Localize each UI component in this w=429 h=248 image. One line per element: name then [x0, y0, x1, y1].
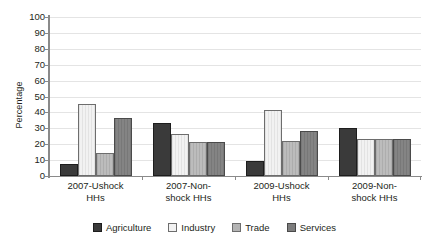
y-tick-label: 100: [21, 12, 45, 22]
x-tick-label-line: HHs: [49, 192, 142, 204]
x-tick-label: 2007-Non-shock HHs: [142, 180, 235, 203]
y-tick-label: 60: [21, 76, 45, 86]
bar-agriculture[interactable]: [60, 164, 78, 176]
x-tick-label-line: 2007-Ushock: [49, 180, 142, 192]
plot-area: [49, 17, 421, 176]
bar-agriculture[interactable]: [153, 123, 171, 176]
legend-item[interactable]: Industry: [168, 222, 215, 233]
y-tick-label: 90: [21, 28, 45, 38]
legend-item[interactable]: Agriculture: [93, 222, 151, 233]
legend-label: Services: [300, 222, 336, 233]
x-axis-tick-labels: 2007-UshockHHs2007-Non-shock HHs2009-Ush…: [49, 180, 421, 203]
legend-item[interactable]: Trade: [232, 222, 269, 233]
bar-chart: Percentage 1009080706050403020100 2007-U…: [0, 0, 429, 248]
x-tick-label-line: shock HHs: [142, 192, 235, 204]
bar-group: [49, 17, 142, 176]
bar-industry[interactable]: [264, 110, 282, 176]
bar-services[interactable]: [393, 139, 411, 176]
x-tick-label-line: HHs: [235, 192, 328, 204]
bar-industry[interactable]: [171, 134, 189, 176]
x-tick-label-line: 2009-Ushock: [235, 180, 328, 192]
legend-label: Trade: [245, 222, 269, 233]
bar-group: [235, 17, 328, 176]
legend-label: Industry: [181, 222, 215, 233]
y-tick-label: 10: [21, 155, 45, 165]
legend-swatch-icon: [93, 223, 102, 232]
legend-item[interactable]: Services: [287, 222, 336, 233]
y-axis-title: Percentage: [14, 60, 24, 150]
bar-trade[interactable]: [375, 139, 393, 176]
y-tick-label: 80: [21, 44, 45, 54]
x-tick-label-line: 2009-Non-: [328, 180, 421, 192]
y-tick-label: 20: [21, 139, 45, 149]
bar-services[interactable]: [207, 142, 225, 176]
bar-industry[interactable]: [357, 139, 375, 176]
legend-swatch-icon: [287, 223, 296, 232]
bar-agriculture[interactable]: [246, 161, 264, 176]
legend-swatch-icon: [232, 223, 241, 232]
bar-trade[interactable]: [282, 141, 300, 176]
y-tick-label: 0: [21, 171, 45, 181]
x-tick-label: 2007-UshockHHs: [49, 180, 142, 203]
x-tick-label-line: shock HHs: [328, 192, 421, 204]
legend-label: Agriculture: [106, 222, 151, 233]
y-tick-label: 40: [21, 107, 45, 117]
y-tick-label: 30: [21, 123, 45, 133]
bar-industry[interactable]: [78, 104, 96, 176]
bar-services[interactable]: [114, 118, 132, 176]
y-tick-label: 70: [21, 60, 45, 70]
bar-services[interactable]: [300, 131, 318, 176]
x-tick-label: 2009-Non-shock HHs: [328, 180, 421, 203]
chart-legend: AgricultureIndustryTradeServices: [0, 222, 429, 233]
bar-trade[interactable]: [189, 142, 207, 176]
x-tick-label-line: 2007-Non-: [142, 180, 235, 192]
bar-group: [328, 17, 421, 176]
bar-group: [142, 17, 235, 176]
x-tick-label: 2009-UshockHHs: [235, 180, 328, 203]
legend-swatch-icon: [168, 223, 177, 232]
bar-groups: [49, 17, 421, 176]
y-tick-label: 50: [21, 92, 45, 102]
bar-trade[interactable]: [96, 153, 114, 176]
bar-agriculture[interactable]: [339, 128, 357, 176]
